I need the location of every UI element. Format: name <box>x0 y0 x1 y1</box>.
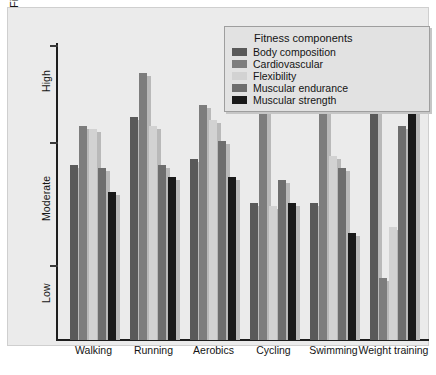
bar-group <box>70 43 117 340</box>
legend-label: Cardiovascular <box>253 58 323 70</box>
legend-swatch <box>232 84 247 92</box>
bar <box>250 203 258 340</box>
bar <box>379 278 387 340</box>
legend-swatch <box>232 48 247 56</box>
legend-label: Body composition <box>253 46 336 58</box>
bar <box>278 180 286 340</box>
legend-swatch <box>232 60 247 68</box>
bar-shadow <box>236 180 240 340</box>
bar <box>398 126 406 340</box>
bar <box>130 117 138 340</box>
bar <box>149 126 157 340</box>
legend: Fitness components Body compositionCardi… <box>224 26 430 112</box>
bar <box>259 108 267 340</box>
bar <box>319 108 327 340</box>
bar <box>139 73 147 340</box>
chart-screenshot: Fitness benefit High Moderate Low Walkin… <box>0 0 436 375</box>
bar <box>209 120 217 340</box>
bar-shadow <box>116 195 120 341</box>
bar <box>70 165 78 340</box>
bar-shadow <box>416 99 420 340</box>
legend-swatch <box>232 96 247 104</box>
bar <box>89 129 97 340</box>
bar <box>288 203 296 340</box>
y-tick-low <box>50 265 58 267</box>
bar <box>98 168 106 340</box>
legend-label: Muscular strength <box>253 94 336 106</box>
legend-entry: Body composition <box>232 46 423 58</box>
y-tick-label-high: High <box>40 70 52 92</box>
bar <box>329 156 337 340</box>
bar-shadow <box>296 206 300 340</box>
legend-title: Fitness components <box>254 32 423 44</box>
legend-entries: Body compositionCardiovascularFlexibilit… <box>232 46 423 106</box>
x-axis-label: Weight training <box>356 344 431 356</box>
bar <box>190 159 198 340</box>
chart-panel: Fitness benefit High Moderate Low Walkin… <box>7 7 429 346</box>
legend-entry: Muscular strength <box>232 94 423 106</box>
legend-label: Flexibility <box>253 70 296 82</box>
bar-group <box>130 43 177 340</box>
bar <box>348 233 356 340</box>
bar <box>79 126 87 340</box>
bar <box>199 105 207 340</box>
legend-entry: Flexibility <box>232 70 423 82</box>
y-axis-title: Fitness benefit <box>8 0 20 8</box>
legend-swatch <box>232 72 247 80</box>
bar <box>158 165 166 340</box>
bar <box>228 177 236 340</box>
bar <box>218 141 226 340</box>
y-tick-label-low: Low <box>40 283 52 303</box>
bar <box>370 94 378 341</box>
bar <box>389 227 397 340</box>
bar <box>269 206 277 340</box>
bar-shadow <box>176 180 180 340</box>
legend-entry: Muscular endurance <box>232 82 423 94</box>
bar-shadow <box>356 236 360 340</box>
bar <box>338 168 346 340</box>
y-tick-high <box>50 45 58 47</box>
bar <box>408 96 416 340</box>
legend-entry: Cardiovascular <box>232 58 423 70</box>
bar <box>108 192 116 341</box>
bar <box>310 203 318 340</box>
bar <box>168 177 176 340</box>
y-tick-label-moderate: Moderate <box>40 176 52 221</box>
y-tick-mid <box>50 142 58 144</box>
legend-label: Muscular endurance <box>253 82 348 94</box>
